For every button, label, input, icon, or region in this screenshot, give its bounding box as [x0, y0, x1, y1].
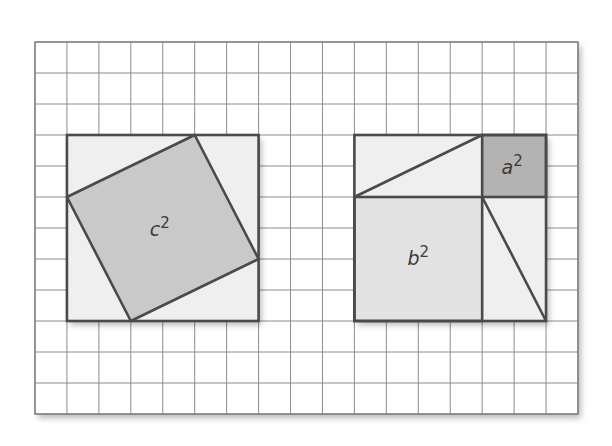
right-panel-a-b-squared: a2b2 — [354, 135, 546, 321]
left-panel-c-squared: c2 — [67, 135, 259, 321]
pythagorean-diagram: c2 a2b2 — [0, 0, 612, 446]
